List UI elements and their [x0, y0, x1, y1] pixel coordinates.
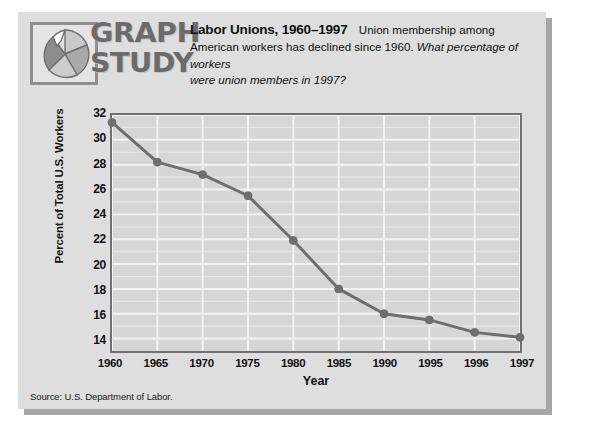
card-header: GRAPH STUDY Labor Unions, 1960–1997 Unio… [18, 12, 546, 96]
graph-study-card: GRAPH STUDY Labor Unions, 1960–1997 Unio… [18, 12, 546, 409]
y-axis-tick-label: 20 [66, 258, 106, 272]
y-axis-tick-label: 24 [66, 207, 106, 221]
y-axis-tick-labels: 14161820222426283032 [62, 113, 106, 353]
y-axis-tick-label: 22 [66, 232, 106, 246]
y-axis-tick-label: 28 [66, 157, 106, 171]
y-axis-tick-label: 14 [66, 333, 106, 347]
subtitle-line-two: American workers has declined since 1960… [190, 39, 532, 72]
data-point-marker [244, 192, 252, 200]
union-membership-line-series [112, 115, 520, 351]
pie-chart-icon [37, 28, 93, 80]
data-point-marker [471, 328, 479, 336]
subtitle-normal-text: American workers has declined since 1960… [190, 40, 417, 53]
heading-block: Labor Unions, 1960–1997 Union membership… [190, 21, 532, 89]
series-line [112, 122, 520, 337]
logo-word-study: STUDY [90, 48, 192, 78]
data-point-marker [289, 237, 297, 245]
x-axis-title: Year [110, 374, 522, 388]
logo-frame [30, 22, 98, 85]
data-point-marker [153, 158, 161, 166]
x-axis-tick-label: 1997 [492, 357, 552, 369]
data-point-marker [335, 285, 343, 293]
source-note: Source: U.S. Department of Labor. [30, 391, 172, 402]
y-axis-tick-label: 32 [66, 106, 106, 120]
y-axis-tick-label: 30 [66, 131, 106, 145]
data-point-marker [516, 333, 524, 341]
data-point-marker [108, 119, 116, 127]
page-title: Labor Unions, 1960–1997 [190, 22, 347, 37]
question-text-part-two: were union members in 1997? [190, 72, 532, 89]
y-axis-tick-label: 16 [66, 308, 106, 322]
title-line: Labor Unions, 1960–1997 Union membership… [190, 21, 532, 39]
plot-area [110, 113, 522, 353]
y-axis-tick-label: 26 [66, 182, 106, 196]
data-point-marker [380, 310, 388, 318]
subtitle-part-one: Union membership among [359, 23, 495, 36]
data-point-marker [199, 171, 207, 179]
y-axis-tick-label: 18 [66, 283, 106, 297]
logo-wordmark: GRAPH STUDY [90, 18, 186, 88]
data-point-marker [425, 316, 433, 324]
logo-word-graph: GRAPH [90, 18, 192, 48]
x-axis-tick-labels: 1960196519701975198019851990199519961997 [110, 357, 522, 375]
